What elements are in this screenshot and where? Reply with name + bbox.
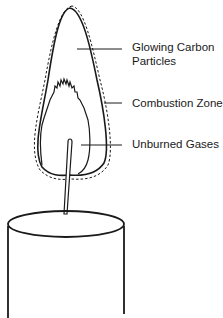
wick xyxy=(64,139,72,214)
label-line: Unburned Gases xyxy=(132,137,219,151)
label-line: Combustion Zone xyxy=(132,96,223,110)
outer-flame-outline xyxy=(38,8,107,175)
label-glowing-carbon-particles: Glowing Carbon Particles xyxy=(132,40,214,68)
label-line: Particles xyxy=(132,54,214,68)
label-line: Glowing Carbon xyxy=(132,40,214,54)
label-unburned-gases: Unburned Gases xyxy=(132,137,219,151)
combustion-zone-outline xyxy=(41,79,90,174)
candle-top xyxy=(8,211,124,237)
label-combustion-zone: Combustion Zone xyxy=(132,96,223,110)
